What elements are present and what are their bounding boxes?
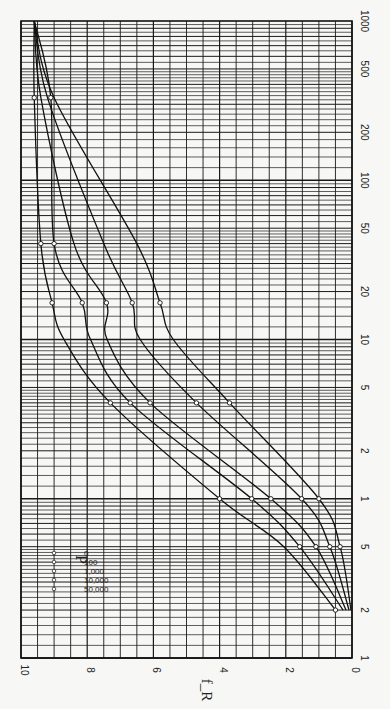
x-tick-label: 20 <box>359 286 370 298</box>
y-tick-label: 10 <box>19 664 30 676</box>
legend-marker <box>52 569 56 573</box>
data-point-marker <box>328 544 332 548</box>
data-point-marker <box>49 95 53 99</box>
data-point-marker <box>32 95 36 99</box>
legend-marker <box>52 560 56 564</box>
legend-entry-label: 100 <box>84 558 98 567</box>
y-axis-label-group: f_R <box>199 679 215 702</box>
legend-marker <box>52 551 56 555</box>
x-tick-labels: 1251251020501002005001000 <box>359 10 370 661</box>
y-tick-labels: 0246810 <box>19 664 361 676</box>
legend-marker <box>52 587 56 591</box>
x-tick-label: 1 <box>359 655 370 661</box>
data-point-marker <box>194 401 198 405</box>
data-point-marker <box>148 401 152 405</box>
markers <box>32 95 342 612</box>
data-point-marker <box>128 401 132 405</box>
y-tick-label: 8 <box>85 667 96 673</box>
data-point-marker <box>158 301 162 305</box>
data-point-marker <box>333 608 337 612</box>
x-tick-label: 1000 <box>359 10 370 33</box>
data-point-marker <box>227 401 231 405</box>
y-tick-label: 0 <box>350 667 361 673</box>
data-point-marker <box>108 401 112 405</box>
legend-entry-label: 1,000 <box>84 567 105 576</box>
x-tick-label: 200 <box>359 124 370 141</box>
data-point-marker <box>298 544 302 548</box>
y-tick-label: 2 <box>284 667 295 673</box>
data-point-marker <box>338 544 342 548</box>
x-tick-label: 2 <box>359 448 370 454</box>
y-tick-label: 6 <box>151 667 162 673</box>
data-point-marker <box>50 301 54 305</box>
legend-entry-label: 0 <box>84 549 89 558</box>
data-point-marker <box>314 544 318 548</box>
x-tick-label: 2 <box>359 607 370 613</box>
chart: 1251251020501002005001000 0246810 f_R P0… <box>0 0 390 709</box>
y-tick-label: 4 <box>218 667 229 673</box>
data-point-marker <box>299 497 303 501</box>
legend-entry-label: 10,000 <box>84 576 109 585</box>
x-tick-label: 50 <box>359 223 370 235</box>
data-point-marker <box>269 497 273 501</box>
data-point-marker <box>217 497 221 501</box>
x-tick-label: 5 <box>359 385 370 391</box>
x-tick-label: 10 <box>359 334 370 346</box>
data-point-marker <box>130 301 134 305</box>
grid <box>21 21 352 658</box>
data-point-marker <box>39 241 43 245</box>
legend-entry-label: 50,000 <box>84 585 109 594</box>
legend-marker <box>52 578 56 582</box>
x-tick-label: 1 <box>359 496 370 502</box>
x-tick-label: 100 <box>359 172 370 189</box>
data-point-marker <box>104 301 108 305</box>
data-point-marker <box>250 497 254 501</box>
x-tick-label: 500 <box>359 61 370 78</box>
data-point-marker <box>52 241 56 245</box>
y-axis-label: f_R <box>199 679 215 702</box>
data-point-marker <box>317 497 321 501</box>
x-tick-label: 5 <box>359 544 370 550</box>
data-point-marker <box>80 301 84 305</box>
